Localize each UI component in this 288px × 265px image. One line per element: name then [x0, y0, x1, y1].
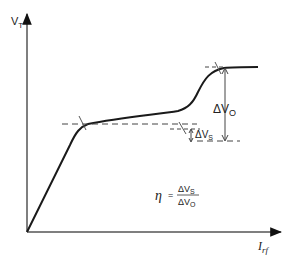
eta-symbol: η: [155, 188, 162, 203]
characteristic-curve: [27, 67, 258, 232]
vt-irf-characteristic-diagram: VT Irf ΔVO ΔVS η = ΔVS ΔVO: [0, 0, 288, 265]
delta-vo-label: ΔVO: [213, 102, 236, 118]
y-axis-label: VT: [11, 15, 23, 30]
equals-sign: =: [168, 190, 173, 200]
efficiency-formula: η = ΔVS ΔVO: [155, 184, 199, 208]
formula-numerator: ΔVS: [178, 184, 195, 195]
x-axis-label: Irf: [257, 239, 270, 255]
delta-vs-label: ΔVS: [195, 129, 213, 141]
formula-denominator: ΔVO: [178, 197, 196, 208]
